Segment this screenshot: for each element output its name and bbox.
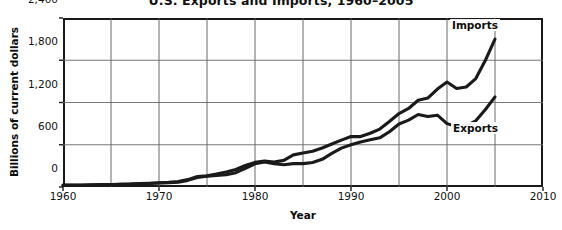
x-tick-label: 1960 [33, 190, 93, 202]
y-tick-label: 1,800 [12, 35, 58, 47]
y-tick-label: 0 [12, 162, 58, 174]
x-axis-title: Year [63, 209, 543, 221]
y-tick-labels: 06001,2001,8002,400 [8, 0, 58, 169]
y-tick-label: 600 [12, 120, 58, 132]
x-tick-label: 1980 [225, 190, 285, 202]
y-tick-marks [59, 18, 63, 187]
x-tick-label: 1990 [321, 190, 381, 202]
series-label-imports: Imports [450, 19, 500, 31]
y-tick-label: 1,200 [12, 78, 58, 90]
series-line-exports [63, 97, 495, 185]
series-label-exports: Exports [451, 122, 500, 134]
x-tick-label: 2010 [513, 190, 562, 202]
chart-figure: U.S. Exports and Imports, 1960–2005 Bill… [0, 0, 562, 230]
gridlines [63, 18, 543, 187]
y-tick-label: 2,400 [12, 0, 58, 5]
x-tick-label: 2000 [417, 190, 477, 202]
x-tick-label: 1970 [129, 190, 189, 202]
data-series [63, 39, 495, 185]
